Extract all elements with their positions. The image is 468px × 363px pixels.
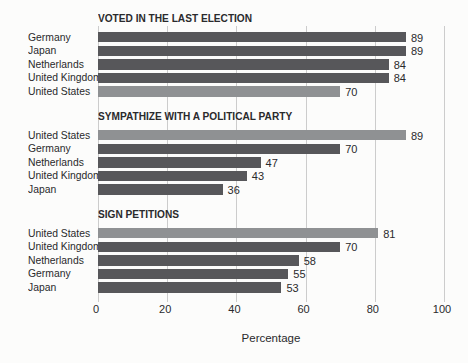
bar-voted-in-the-last-election-netherlands: [98, 59, 389, 69]
value-label-voted-in-the-last-election-united-kingdom: 84: [394, 72, 406, 84]
value-label-sign-petitions-germany: 55: [293, 268, 305, 280]
bar-sympathize-with-a-political-party-japan: [98, 184, 223, 194]
row-label-netherlands: Netherlands: [28, 58, 84, 70]
x-tick-label-80: 80: [356, 303, 390, 315]
value-label-voted-in-the-last-election-japan: 89: [411, 45, 423, 57]
bar-sign-petitions-germany: [98, 269, 288, 279]
row-label-united-kingdom: United Kingdom: [28, 240, 102, 252]
section-title-voted-in-the-last-election: VOTED IN THE LAST ELECTION: [98, 12, 252, 24]
row-label-united-kingdom: United Kingdom: [28, 71, 102, 83]
row-label-germany: Germany: [28, 142, 71, 154]
value-label-sign-petitions-united-states: 81: [383, 228, 395, 240]
value-label-sign-petitions-japan: 53: [286, 282, 298, 294]
row-label-japan: Japan: [28, 183, 56, 195]
row-label-united-states: United States: [28, 85, 90, 97]
value-label-voted-in-the-last-election-netherlands: 84: [394, 59, 406, 71]
row-label-germany: Germany: [28, 31, 71, 43]
value-label-sympathize-with-a-political-party-united-states: 89: [411, 130, 423, 142]
x-axis-title: Percentage: [98, 332, 444, 344]
bar-sign-petitions-japan: [98, 282, 281, 292]
bar-sign-petitions-united-kingdom: [98, 242, 340, 252]
value-label-sympathize-with-a-political-party-united-kingdom: 43: [252, 170, 264, 182]
bar-voted-in-the-last-election-united-states: [98, 86, 340, 96]
x-tick-label-40: 40: [217, 303, 251, 315]
value-label-sympathize-with-a-political-party-japan: 36: [228, 184, 240, 196]
row-label-netherlands: Netherlands: [28, 156, 84, 168]
bar-voted-in-the-last-election-united-kingdom: [98, 73, 389, 83]
row-label-netherlands: Netherlands: [28, 254, 84, 266]
row-label-germany: Germany: [28, 267, 71, 279]
bar-sympathize-with-a-political-party-united-states: [98, 130, 406, 140]
x-tick-label-60: 60: [287, 303, 321, 315]
bar-sign-petitions-united-states: [98, 228, 378, 238]
bar-sympathize-with-a-political-party-germany: [98, 144, 340, 154]
x-tick-label-20: 20: [148, 303, 182, 315]
value-label-voted-in-the-last-election-united-states: 70: [345, 86, 357, 98]
x-tick-label-100: 100: [425, 303, 459, 315]
bar-sympathize-with-a-political-party-netherlands: [98, 157, 261, 167]
row-label-united-kingdom: United Kingdom: [28, 169, 102, 181]
value-label-voted-in-the-last-election-germany: 89: [411, 32, 423, 44]
value-label-sympathize-with-a-political-party-germany: 70: [345, 143, 357, 155]
bar-sign-petitions-netherlands: [98, 255, 299, 265]
bar-sympathize-with-a-political-party-united-kingdom: [98, 171, 247, 181]
gridline-100: [444, 26, 445, 302]
row-label-united-states: United States: [28, 227, 90, 239]
value-label-sympathize-with-a-political-party-netherlands: 47: [266, 157, 278, 169]
section-title-sympathize-with-a-political-party: SYMPATHIZE WITH A POLITICAL PARTY: [98, 110, 292, 122]
bar-chart: VOTED IN THE LAST ELECTIONGermany89Japan…: [0, 0, 468, 363]
bar-voted-in-the-last-election-japan: [98, 46, 406, 56]
row-label-japan: Japan: [28, 281, 56, 293]
x-tick-label-0: 0: [79, 303, 113, 315]
bar-voted-in-the-last-election-germany: [98, 32, 406, 42]
value-label-sign-petitions-united-kingdom: 70: [345, 241, 357, 253]
section-title-sign-petitions: SIGN PETITIONS: [98, 208, 179, 220]
row-label-united-states: United States: [28, 129, 90, 141]
row-label-japan: Japan: [28, 44, 56, 56]
value-label-sign-petitions-netherlands: 58: [304, 255, 316, 267]
